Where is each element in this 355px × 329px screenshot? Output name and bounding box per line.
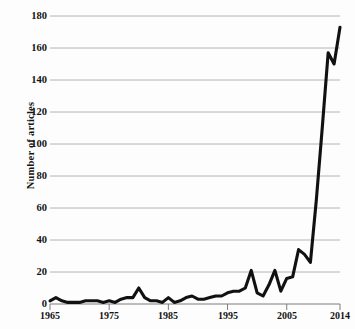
- gridlines: [50, 16, 340, 272]
- chart-figure: Number of articles 180 160 140 120 100 8…: [0, 0, 355, 329]
- plot-area: [0, 0, 355, 329]
- data-series-line: [50, 27, 340, 302]
- x-axis-ticks: [50, 304, 340, 310]
